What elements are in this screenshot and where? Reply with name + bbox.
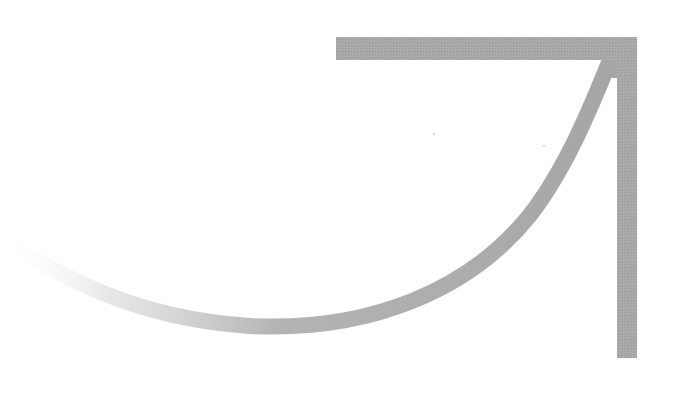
arrowhead-horizontal-arm bbox=[336, 37, 637, 60]
scan-speck bbox=[433, 133, 435, 135]
scan-speck bbox=[543, 145, 545, 147]
diagram-canvas bbox=[0, 0, 697, 412]
arrow-shaft-curve bbox=[0, 55, 612, 327]
arrowhead-vertical-arm bbox=[617, 37, 637, 358]
